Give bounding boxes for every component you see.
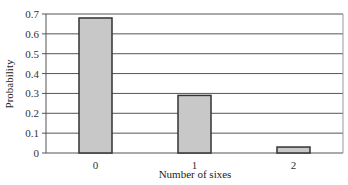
x-axis-label: Number of sixes [159, 168, 232, 180]
y-axis-ticks: 00.10.20.30.40.50.60.7 [25, 8, 46, 159]
y-tick-label: 0.4 [25, 68, 39, 80]
y-tick-label: 0.7 [25, 8, 39, 20]
y-tick-label: 0.6 [25, 28, 39, 40]
y-axis-label: Probability [3, 59, 15, 108]
bar-1 [178, 95, 211, 153]
y-tick-label: 0 [34, 147, 40, 159]
x-tick-label: 0 [93, 159, 99, 171]
y-tick-label: 0.5 [25, 48, 39, 60]
bar-2 [277, 147, 310, 153]
y-tick-label: 0.1 [25, 127, 39, 139]
bar-chart: 00.10.20.30.40.50.60.7 012 Number of six… [0, 0, 348, 185]
x-tick-label: 2 [291, 159, 297, 171]
bar-0 [79, 18, 112, 153]
y-tick-label: 0.3 [25, 87, 39, 99]
y-tick-label: 0.2 [25, 107, 39, 119]
